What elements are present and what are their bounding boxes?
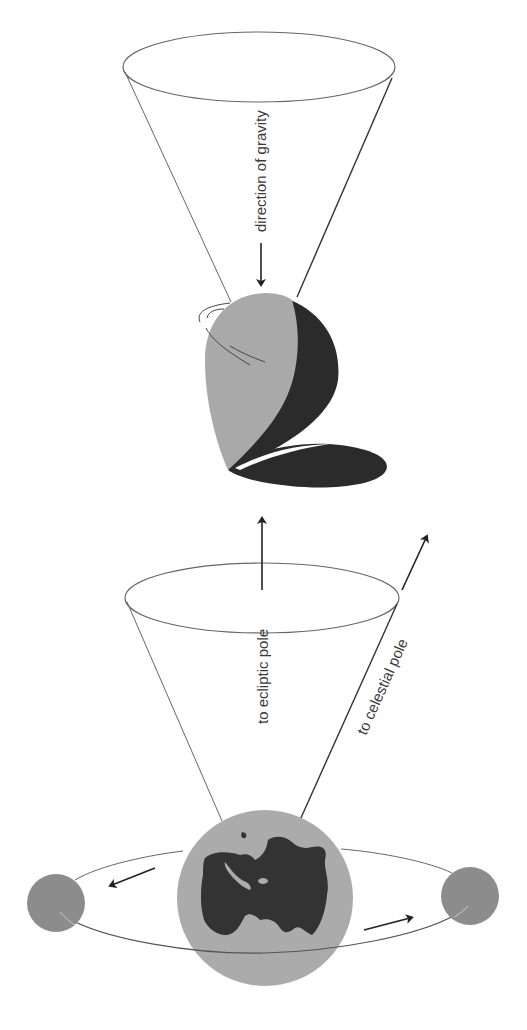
moon-right-icon: [441, 867, 499, 925]
moon-left-icon: [27, 874, 85, 932]
precession-diagram: direction of gravity to ecliptic pole to…: [0, 0, 527, 1030]
celestial-pole-arrow: [402, 538, 426, 590]
earth-icon: [177, 810, 353, 986]
celestial-pole-label: to celestial pole: [353, 636, 411, 737]
orbit-arrow-right: [364, 918, 410, 930]
ecliptic-pole-label: to ecliptic pole: [254, 629, 271, 724]
gravity-label: direction of gravity: [252, 110, 269, 232]
spinning-top-icon: [199, 293, 387, 487]
orbit-arrow-left: [112, 868, 155, 885]
